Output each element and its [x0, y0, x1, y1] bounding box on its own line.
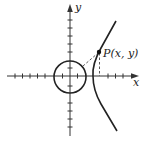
point-p-marker — [97, 50, 101, 54]
x-axis-label: x — [133, 76, 140, 89]
x-axis — [7, 73, 139, 79]
diagram-figure: P(x, y) y x — [0, 0, 150, 145]
y-axis — [67, 4, 73, 136]
point-p-label: P(x, y) — [102, 47, 138, 60]
y-axis-arrow-icon — [67, 4, 73, 12]
y-axis-label: y — [74, 1, 82, 14]
